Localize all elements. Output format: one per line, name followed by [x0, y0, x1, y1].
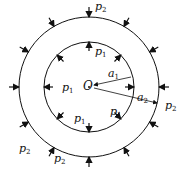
- inner-pressure-label-bottom-left: p1: [74, 113, 86, 126]
- inner-radius-label: a1: [108, 68, 119, 81]
- outer-pressure-label-right: p2: [165, 100, 177, 113]
- center-label: O: [83, 80, 93, 92]
- outer-pressure-label-top: p2: [95, 1, 107, 14]
- inner-pressure-label-bottom-right: p1: [110, 106, 122, 119]
- inner-pressure-label-left: p1: [62, 82, 74, 95]
- inner-pressure-label-top: p1: [95, 46, 107, 59]
- outer-pressure-label-left: p2: [19, 143, 31, 156]
- outer-radius-label: a2: [137, 92, 148, 105]
- cylinder-diagram: p2 p2 p2 p2 p1 p1 p1 p1 O a1 a2: [0, 0, 178, 174]
- outer-pressure-label-bottom: p2: [54, 153, 66, 166]
